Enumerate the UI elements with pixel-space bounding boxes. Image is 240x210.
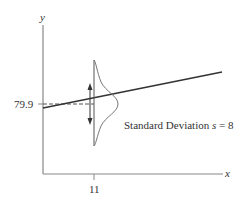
arrow-head-down-icon [88, 118, 93, 125]
x-axis-label: x [224, 167, 230, 179]
normal-distribution-curve [94, 60, 118, 146]
regression-diagram: y x 79.9 11 Standard Deviation s = 8 [0, 0, 240, 210]
y-value-label: 79.9 [14, 98, 34, 110]
arrow-head-up-icon [88, 83, 93, 90]
std-dev-annotation: Standard Deviation s = 8 [124, 119, 234, 131]
y-axis-label: y [39, 11, 45, 23]
x-tick-label: 11 [89, 183, 100, 195]
regression-line [43, 72, 222, 108]
